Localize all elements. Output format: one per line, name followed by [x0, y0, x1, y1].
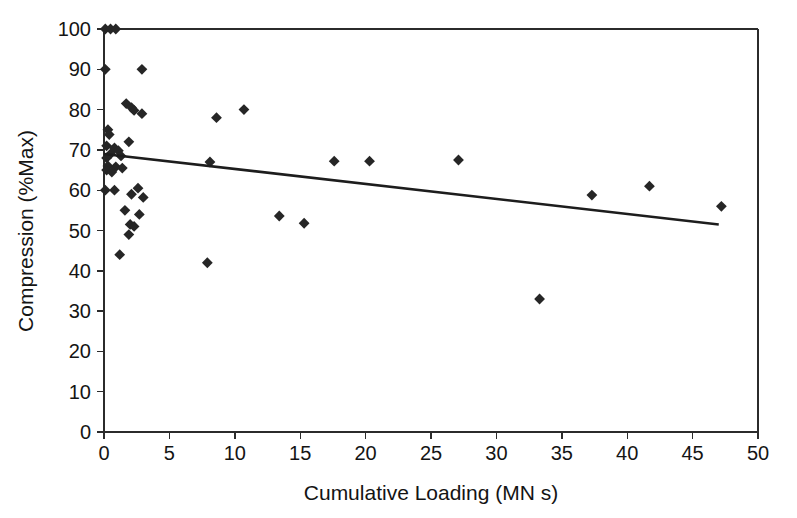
chart-figure: 0102030405060708090100 05101520253035404… — [0, 0, 797, 518]
y-tick-label: 80 — [69, 99, 91, 121]
x-tick-label: 15 — [289, 442, 311, 464]
y-tick-label: 60 — [69, 179, 91, 201]
y-tick-label: 70 — [69, 139, 91, 161]
x-tick-label: 30 — [485, 442, 507, 464]
y-tick-label: 0 — [80, 421, 91, 443]
x-tick-label: 40 — [616, 442, 638, 464]
x-tick-label: 10 — [224, 442, 246, 464]
x-tick-label: 5 — [164, 442, 175, 464]
x-tick-label: 35 — [551, 442, 573, 464]
y-tick-label: 40 — [69, 260, 91, 282]
x-tick-label: 45 — [681, 442, 703, 464]
x-tick-label: 20 — [354, 442, 376, 464]
y-tick-label: 100 — [58, 18, 91, 40]
scatter-plot-canvas: 0102030405060708090100 05101520253035404… — [0, 0, 797, 518]
y-tick-label: 30 — [69, 300, 91, 322]
y-tick-label: 20 — [69, 340, 91, 362]
y-tick-label: 90 — [69, 58, 91, 80]
x-tick-label: 0 — [98, 442, 109, 464]
y-axis-title: Compression (%Max) — [14, 130, 37, 332]
x-tick-label: 50 — [747, 442, 769, 464]
y-tick-label: 50 — [69, 220, 91, 242]
x-axis-title: Cumulative Loading (MN s) — [304, 481, 558, 504]
y-tick-label: 10 — [69, 381, 91, 403]
x-tick-label: 25 — [420, 442, 442, 464]
